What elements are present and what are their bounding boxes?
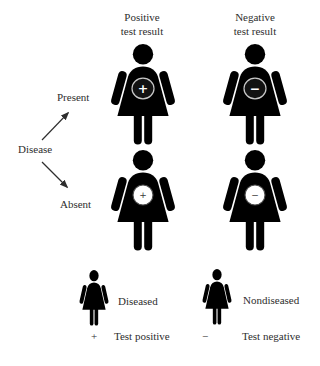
figure-absent-test-positive: + <box>110 150 176 253</box>
diagram-canvas: Positive test result Negative test resul… <box>0 0 320 366</box>
branch-arrows <box>28 103 83 195</box>
person-nondiseased-icon <box>203 269 232 325</box>
legend-diseased-label: Diseased <box>118 295 158 308</box>
column-header-negative: Negative test result <box>234 11 276 38</box>
column-header-positive-line1: Positive <box>121 11 163 25</box>
legend-negative-symbol: − <box>202 330 208 343</box>
legend-diseased-icon <box>79 270 109 327</box>
column-header-negative-line1: Negative <box>234 11 276 25</box>
figure-absent-test-negative: − <box>222 150 288 253</box>
legend-nondiseased-icon <box>202 269 232 326</box>
legend-positive-label: Test positive <box>114 330 170 343</box>
legend-negative-label: Test negative <box>242 330 300 343</box>
figure-present-test-negative: − <box>222 44 288 147</box>
column-header-positive-line2: test result <box>121 25 163 39</box>
test-negative-symbol: − <box>250 81 260 96</box>
legend-positive-symbol: + <box>91 330 97 343</box>
row-label-absent: Absent <box>60 198 91 211</box>
arrow-to-absent-icon <box>42 162 67 187</box>
test-negative-symbol: − <box>251 190 259 200</box>
test-positive-symbol: + <box>138 81 148 96</box>
legend-nondiseased-label: Nondiseased <box>243 294 299 307</box>
arrow-to-present-icon <box>42 113 68 140</box>
column-header-positive: Positive test result <box>121 11 163 38</box>
person-diseased-icon <box>80 270 109 326</box>
figure-present-test-positive: + <box>110 44 176 147</box>
column-header-negative-line2: test result <box>234 25 276 39</box>
test-positive-symbol: + <box>139 190 147 200</box>
